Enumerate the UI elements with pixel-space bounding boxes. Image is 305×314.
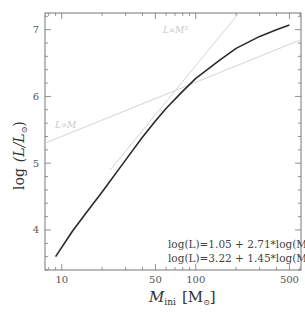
mass-luminosity-chart: 10501005004567 L∝M L∝M³ log(L)=1.05 + 2.…: [0, 0, 305, 314]
guide-line: [45, 40, 301, 144]
data-curves: [56, 25, 290, 257]
y-tick-label: 4: [33, 224, 39, 235]
x-tick-label: 100: [186, 274, 205, 285]
plot-frame: [45, 13, 301, 270]
guide-label-linear: L∝M: [54, 120, 77, 130]
fit-equation-low-mass: log(L)=1.05 + 2.71*log(M<50): [168, 238, 305, 252]
guide-label-cubic: L∝M³: [162, 25, 188, 35]
x-axis-title: Mini[M⊙]: [148, 288, 216, 307]
y-axis-title: log(L/L⊙): [11, 121, 29, 190]
x-tick-label: 500: [280, 274, 299, 285]
plot-border: [45, 13, 301, 270]
axis-ticks: [45, 13, 301, 270]
y-tick-label: 5: [33, 158, 39, 169]
fit-equation-high-mass: log(L)=3.22 + 1.45*log(M>80): [168, 252, 305, 266]
mass-luminosity-curve: [56, 25, 290, 257]
guide-line: [110, 13, 239, 170]
y-tick-label: 6: [33, 91, 39, 102]
guide-lines: [45, 13, 301, 170]
x-tick-label: 10: [55, 274, 68, 285]
x-tick-label: 50: [149, 274, 162, 285]
y-tick-label: 7: [33, 24, 39, 35]
